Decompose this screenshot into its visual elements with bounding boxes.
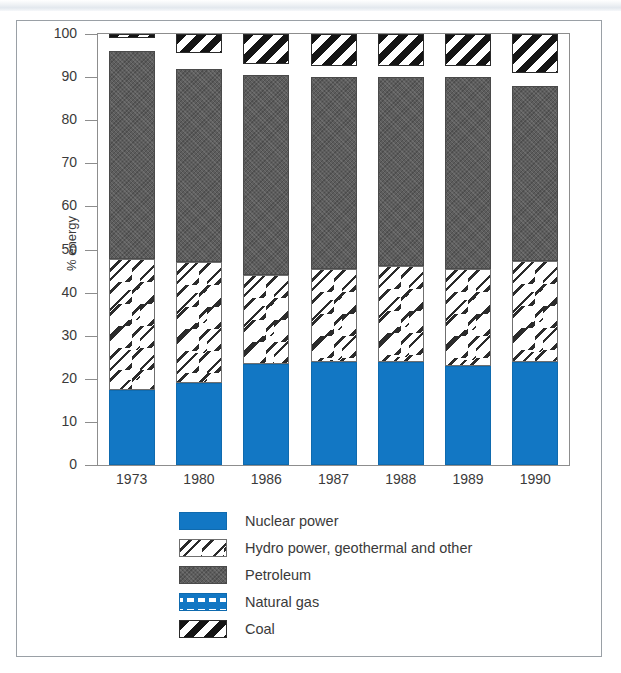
bars-layer xyxy=(98,34,569,465)
bar-segment-coal xyxy=(109,34,155,38)
bar-segment-nuclear xyxy=(311,362,357,465)
bar-group xyxy=(109,34,155,465)
legend-item: Nuclear power xyxy=(17,507,603,534)
y-tick-mark xyxy=(85,422,97,423)
y-tick-label: 10 xyxy=(61,413,77,429)
scan-banner xyxy=(0,0,621,11)
bar-segment-hydro xyxy=(512,261,558,362)
y-tick-label: 40 xyxy=(61,284,77,300)
y-tick-mark xyxy=(85,77,97,78)
legend-label: Petroleum xyxy=(245,567,311,583)
y-tick-label: 100 xyxy=(54,25,77,41)
y-tick-mark xyxy=(85,34,97,35)
y-tick: 100 xyxy=(17,34,97,35)
legend-label: Hydro power, geothermal and other xyxy=(245,540,472,556)
y-tick: 50 xyxy=(17,250,97,251)
bar-group xyxy=(311,34,357,465)
y-tick-label: 90 xyxy=(61,68,77,84)
y-tick-mark xyxy=(85,120,97,121)
y-tick: 70 xyxy=(17,163,97,164)
bar-segment-petroleum xyxy=(176,69,222,263)
bar-segment-hydro xyxy=(243,275,289,363)
y-tick-mark xyxy=(85,250,97,251)
legend-label: Coal xyxy=(245,621,275,637)
bar-segment-petroleum xyxy=(109,51,155,259)
bar-group xyxy=(176,34,222,465)
legend-label: Nuclear power xyxy=(245,513,339,529)
y-tick-label: 70 xyxy=(61,154,77,170)
bar-segment-hydro xyxy=(311,269,357,362)
bar-segment-petroleum xyxy=(512,86,558,261)
figure-frame: % energy 0102030405060708090100 19731980… xyxy=(16,20,602,657)
nuclear-swatch xyxy=(179,512,227,530)
natural-gas-swatch xyxy=(179,593,227,611)
y-tick-label: 30 xyxy=(61,327,77,343)
x-axis-label: 1973 xyxy=(102,471,162,487)
bar-segment-coal xyxy=(512,34,558,73)
bar-segment-coal xyxy=(311,34,357,66)
y-tick: 90 xyxy=(17,77,97,78)
x-axis-label: 1988 xyxy=(371,471,431,487)
plot-area: % energy 0102030405060708090100 19731980… xyxy=(17,21,603,491)
bar-segment-nuclear xyxy=(176,383,222,465)
bar-group xyxy=(243,34,289,465)
bar-segment-petroleum xyxy=(311,77,357,269)
y-tick: 40 xyxy=(17,293,97,294)
bar-segment-coal xyxy=(445,34,491,66)
bar-segment-coal xyxy=(243,34,289,64)
y-tick-mark xyxy=(85,336,97,337)
bar-segment-petroleum xyxy=(445,77,491,269)
x-axis-label: 1986 xyxy=(236,471,296,487)
y-tick-label: 20 xyxy=(61,370,77,386)
bar-segment-nuclear xyxy=(109,390,155,465)
x-axis-labels: 1973198019861987198819891990 xyxy=(98,471,569,493)
y-tick-label: 50 xyxy=(61,241,77,257)
y-tick-mark xyxy=(85,379,97,380)
y-tick-mark xyxy=(85,293,97,294)
legend-label: Natural gas xyxy=(245,594,319,610)
y-tick-label: 80 xyxy=(61,111,77,127)
coal-swatch xyxy=(179,620,227,638)
legend-item: Natural gas xyxy=(17,588,603,615)
legend: Nuclear powerHydro power, geothermal and… xyxy=(17,507,603,642)
legend-item: Hydro power, geothermal and other xyxy=(17,534,603,561)
y-tick-label: 0 xyxy=(69,456,77,472)
y-tick-mark xyxy=(85,206,97,207)
y-tick-mark xyxy=(85,163,97,164)
y-tick: 0 xyxy=(17,465,97,466)
bar-segment-nuclear xyxy=(445,366,491,465)
legend-item: Petroleum xyxy=(17,561,603,588)
bar-segment-coal xyxy=(378,34,424,66)
y-tick: 20 xyxy=(17,379,97,380)
bar-segment-hydro xyxy=(378,266,424,362)
y-tick-label: 60 xyxy=(61,197,77,213)
bar-segment-nuclear xyxy=(243,364,289,465)
x-axis-label: 1990 xyxy=(505,471,565,487)
x-axis-label: 1980 xyxy=(169,471,229,487)
bar-segment-petroleum xyxy=(243,75,289,275)
bar-segment-petroleum xyxy=(378,77,424,266)
y-tick: 30 xyxy=(17,336,97,337)
hydro-swatch xyxy=(179,539,227,557)
x-axis-label: 1989 xyxy=(438,471,498,487)
bar-segment-nuclear xyxy=(378,362,424,465)
bar-segment-hydro xyxy=(445,269,491,366)
bar-segment-hydro xyxy=(109,259,155,389)
bar-segment-hydro xyxy=(176,262,222,383)
y-tick-mark xyxy=(85,465,97,466)
legend-item: Coal xyxy=(17,615,603,642)
bar-group xyxy=(378,34,424,465)
x-axis-label: 1987 xyxy=(304,471,364,487)
petroleum-swatch xyxy=(179,566,227,584)
y-tick: 60 xyxy=(17,206,97,207)
y-tick: 10 xyxy=(17,422,97,423)
bar-group xyxy=(512,34,558,465)
bar-segment-nuclear xyxy=(512,362,558,465)
bar-group xyxy=(445,34,491,465)
y-tick: 80 xyxy=(17,120,97,121)
bar-segment-coal xyxy=(176,34,222,53)
